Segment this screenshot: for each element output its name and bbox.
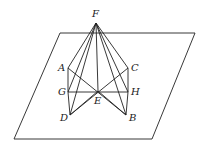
label-F: F bbox=[91, 8, 100, 19]
label-D: D bbox=[59, 112, 68, 123]
segment-FC bbox=[96, 23, 128, 68]
label-H: H bbox=[130, 86, 140, 97]
label-E: E bbox=[93, 95, 102, 106]
label-G: G bbox=[58, 86, 66, 97]
label-C: C bbox=[131, 62, 139, 73]
segment-FA bbox=[68, 23, 96, 68]
segment-GD bbox=[68, 92, 70, 115]
label-B: B bbox=[128, 112, 136, 123]
geometry-diagram: F A C G H E D B bbox=[0, 0, 207, 149]
segment-FD bbox=[70, 23, 96, 115]
label-A: A bbox=[57, 62, 65, 73]
segment-HB bbox=[126, 92, 128, 115]
